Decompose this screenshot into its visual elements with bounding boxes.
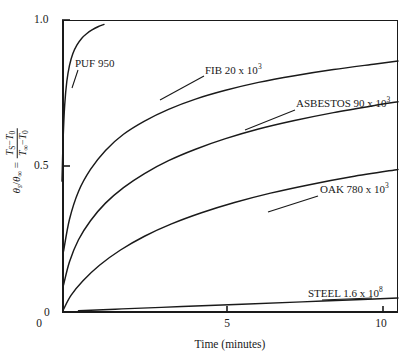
y-axis-denominator: T∞−T0	[17, 128, 30, 158]
curve-label-fib: FIB 20 x 103	[205, 63, 262, 76]
y-axis-equals: =	[10, 162, 22, 168]
y-axis-fraction: TS−T0 T∞−T0	[5, 128, 30, 158]
curve-label-asbestos: ASBESTOS 90 x 103	[296, 96, 390, 109]
xtick-label-10: 10	[366, 318, 396, 330]
ytick-label-0.5: 0.5	[34, 160, 48, 172]
y-axis-title: θs/θ∞= TS−T0 T∞−T0	[5, 85, 30, 235]
ytick-label-0: 0	[44, 307, 50, 319]
ytick-label-1.0: 1.0	[34, 14, 48, 26]
y-axis-theta-s: θs	[10, 185, 22, 193]
curve-label-steel: STEEL 1.6 x 108	[308, 286, 383, 299]
y-axis-numerator: TS−T0	[5, 128, 17, 158]
x-axis-title: Time (minutes)	[62, 338, 398, 350]
thermal-response-chart: 1.0 0.5 0 0 5 10 Time (minutes) θs/θ∞= T…	[0, 0, 420, 361]
y-axis-theta-inf: θ∞	[10, 171, 22, 182]
xtick-label-5: 5	[212, 318, 242, 330]
y-axis-slash: /	[10, 182, 22, 185]
curve-label-puf: PUF 950	[75, 56, 114, 69]
curve-label-oak: OAK 780 x 103	[320, 182, 389, 195]
xtick-label-0: 0	[24, 318, 54, 330]
